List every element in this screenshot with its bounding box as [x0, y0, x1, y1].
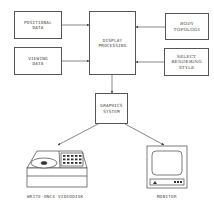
body-topology-label: BODY TOPOLOGY — [174, 21, 201, 32]
display-processing-label: DISPLAY PROCESSING — [99, 38, 127, 49]
viewing-data-box: VIEWING DATA — [14, 47, 62, 75]
positional-data-label: POSITIONAL DATA — [24, 20, 52, 31]
graphics-system-label: GRAPHICS SYSTEM — [100, 103, 122, 114]
viewing-data-label: VIEWING DATA — [28, 56, 48, 67]
videodisk-caption: WRITE-ONCE VIDEODISK — [27, 194, 83, 199]
arrow-graphics-to-monitor — [125, 124, 164, 145]
select-rendering-style-label: SELECT RENDERING STYLE — [171, 54, 202, 71]
monitor-caption: MONITOR — [157, 194, 177, 199]
select-rendering-style-box: SELECT RENDERING STYLE — [164, 48, 209, 76]
body-topology-box: BODY TOPOLOGY — [165, 13, 209, 40]
graphics-system-box: GRAPHICS SYSTEM — [95, 93, 128, 124]
display-processing-box: DISPLAY PROCESSING — [89, 11, 136, 75]
arrow-graphics-to-videodisk — [58, 124, 98, 145]
positional-data-box: POSITIONAL DATA — [14, 11, 62, 39]
videodisk-icon — [27, 151, 87, 187]
